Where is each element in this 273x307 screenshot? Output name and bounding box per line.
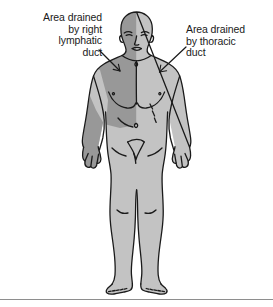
label-right-lymphatic-duct: Area drained by right lymphatic duct [6, 12, 102, 58]
anatomical-figure-panel: Area drained by right lymphatic duct Are… [0, 0, 273, 307]
label-thoracic-duct: Area drained by thoracic duct [186, 24, 270, 59]
bottom-divider [0, 299, 273, 300]
